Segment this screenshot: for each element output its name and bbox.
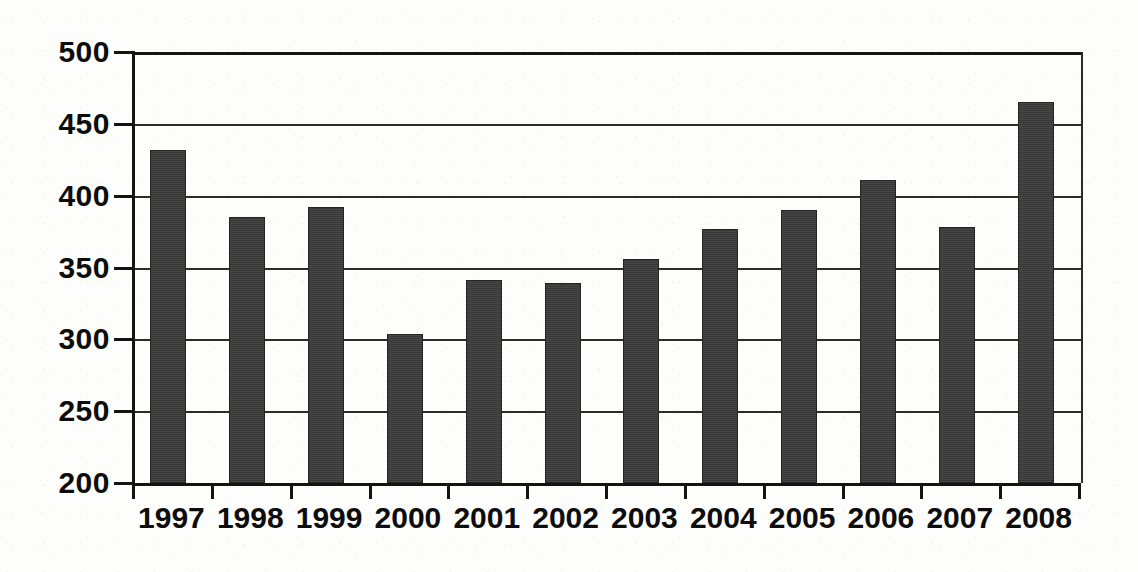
x-tick-label-2006: 2006 <box>848 500 915 536</box>
x-tick-label-1997: 1997 <box>138 500 205 536</box>
bar-2001 <box>466 280 502 483</box>
x-tick-mark-0 <box>132 483 135 499</box>
x-tick-label-2002: 2002 <box>532 500 599 536</box>
x-tick-mark-6 <box>605 483 608 499</box>
x-tick-mark-9 <box>842 483 845 499</box>
bar-2004 <box>702 229 738 483</box>
bar-1998 <box>229 217 265 483</box>
bar-2006 <box>860 180 896 483</box>
bar-2003 <box>623 259 659 483</box>
x-axis-tick-labels: 1997199819992000200120022003200420052006… <box>132 500 1078 546</box>
bar-1999 <box>308 207 344 483</box>
x-tick-label-2003: 2003 <box>611 500 678 536</box>
bar-2005 <box>781 210 817 483</box>
y-tick-label-250: 250 <box>0 396 110 426</box>
y-tick-label-350: 350 <box>0 253 110 283</box>
y-tick-label-450: 450 <box>0 109 110 139</box>
x-tick-mark-7 <box>684 483 687 499</box>
x-tick-mark-4 <box>447 483 450 499</box>
x-tick-mark-11 <box>999 483 1002 499</box>
x-tick-mark-1 <box>211 483 214 499</box>
x-axis-tick-marks <box>132 483 1078 501</box>
y-tick-label-500: 500 <box>0 37 110 67</box>
x-tick-label-2005: 2005 <box>769 500 836 536</box>
y-tick-label-400: 400 <box>0 181 110 211</box>
bars-layer <box>132 52 1078 483</box>
x-tick-mark-12 <box>1078 483 1081 499</box>
x-tick-mark-5 <box>526 483 529 499</box>
y-tick-label-300: 300 <box>0 324 110 354</box>
bar-2008 <box>1018 102 1054 483</box>
x-tick-label-2004: 2004 <box>690 500 757 536</box>
x-tick-mark-8 <box>763 483 766 499</box>
bar-2007 <box>939 227 975 483</box>
y-axis-tick-labels: 200250300350400450500 <box>0 0 110 572</box>
y-tick-label-200: 200 <box>0 468 110 498</box>
x-tick-mark-10 <box>920 483 923 499</box>
x-tick-label-2008: 2008 <box>1005 500 1072 536</box>
x-tick-label-2007: 2007 <box>926 500 993 536</box>
x-tick-label-2001: 2001 <box>453 500 520 536</box>
x-tick-mark-3 <box>369 483 372 499</box>
x-tick-label-1999: 1999 <box>296 500 363 536</box>
bar-2002 <box>545 283 581 483</box>
x-tick-label-1998: 1998 <box>217 500 284 536</box>
x-tick-label-2000: 2000 <box>375 500 442 536</box>
x-tick-mark-2 <box>290 483 293 499</box>
bar-2000 <box>387 334 423 483</box>
bar-chart: 200250300350400450500 199719981999200020… <box>0 0 1138 572</box>
bar-1997 <box>150 150 186 483</box>
